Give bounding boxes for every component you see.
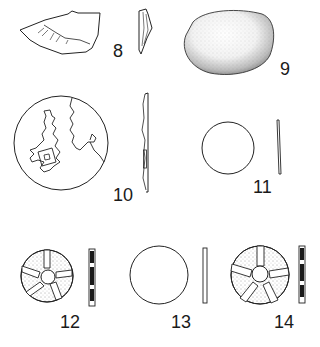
label-item-14: 14	[274, 313, 294, 331]
label-item-10: 10	[113, 186, 133, 204]
item-11-profile	[277, 120, 281, 174]
item-8-flake-profile	[139, 9, 152, 54]
figure-drawings	[0, 0, 320, 347]
item-9-pebble	[184, 10, 273, 74]
item-11-disc	[202, 122, 254, 174]
item-8-flake-plan	[20, 11, 100, 54]
label-item-9: 9	[280, 60, 290, 78]
item-12-profile	[89, 249, 95, 306]
label-item-11: 11	[253, 178, 272, 196]
label-item-8: 8	[113, 42, 123, 60]
item-12-spoked-disc	[21, 250, 73, 302]
item-14-profile	[299, 246, 305, 303]
item-10-map-disc	[14, 96, 108, 190]
label-item-12: 12	[60, 313, 80, 331]
label-item-13: 13	[171, 313, 191, 331]
artifact-figure: 8 9 10 11 12 13 14	[0, 0, 320, 347]
item-10-profile	[142, 93, 148, 192]
item-13-disc	[130, 246, 188, 304]
item-13-profile	[203, 248, 207, 303]
item-14-spoked-disc	[231, 246, 289, 304]
